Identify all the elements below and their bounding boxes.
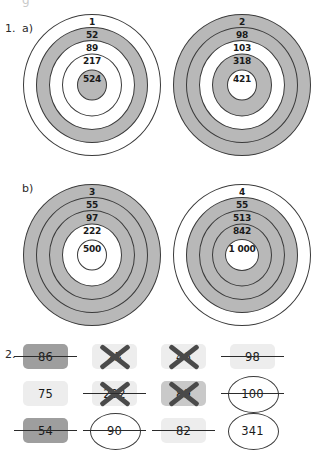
- target-4: 4 55 513 842 1 000: [172, 182, 312, 328]
- target-2-label-1: 2: [239, 17, 245, 27]
- exercise-2-grid: 86 23 46 98 75: [18, 338, 298, 449]
- target-3: 3 55 97 222 500: [22, 182, 162, 328]
- partial-glyph-top: g: [22, 0, 30, 7]
- target-2-label-2: 98: [236, 30, 248, 40]
- number-cell[interactable]: 23: [87, 343, 142, 370]
- target-4-label-2: 55: [236, 200, 248, 210]
- cell-value: 46: [176, 350, 191, 364]
- number-row: 86 23 46 98: [18, 338, 298, 375]
- circle-mark-icon: [90, 413, 141, 450]
- cell-value: 75: [38, 387, 53, 401]
- strikethrough-mark: [152, 430, 215, 431]
- target-4-label-3: 513: [233, 213, 251, 223]
- target-2-label-4: 318: [233, 56, 251, 66]
- target-3-label-4: 222: [83, 226, 101, 236]
- target-4-label-5: 1 000: [228, 244, 255, 254]
- strikethrough-mark: [221, 356, 284, 357]
- target-2: 2 98 103 318 421: [172, 12, 312, 158]
- target-3-label-1: 3: [89, 187, 95, 197]
- number-cell[interactable]: 341: [225, 417, 280, 444]
- number-cell[interactable]: 75: [18, 380, 73, 407]
- cell-value: 23: [107, 350, 122, 364]
- strikethrough-mark: [14, 356, 77, 357]
- exercise-2-number: 2.: [5, 348, 16, 361]
- target-1-label-1: 1: [89, 17, 95, 27]
- number-cell[interactable]: 46: [156, 343, 211, 370]
- target-1-label-4: 217: [83, 56, 101, 66]
- circle-mark-icon: [228, 376, 279, 413]
- number-cell[interactable]: 82: [156, 417, 211, 444]
- target-1: 1 52 89 217 524: [22, 12, 162, 158]
- number-row: 75 202 89 100: [18, 375, 298, 412]
- number-cell[interactable]: 89: [156, 380, 211, 407]
- strikethrough-mark: [83, 393, 146, 394]
- strikethrough-mark: [14, 430, 77, 431]
- number-cell[interactable]: 86: [18, 343, 73, 370]
- target-1-label-5: 524: [83, 74, 101, 84]
- number-cell[interactable]: 202: [87, 380, 142, 407]
- number-cell[interactable]: 98: [225, 343, 280, 370]
- target-2-label-3: 103: [233, 43, 251, 53]
- number-cell[interactable]: 90: [87, 417, 142, 444]
- target-4-label-4: 842: [233, 226, 251, 236]
- strikethrough-mark: [221, 393, 284, 394]
- number-row: 54 90 82 341: [18, 412, 298, 449]
- target-4-label-1: 4: [239, 187, 245, 197]
- number-cell[interactable]: 54: [18, 417, 73, 444]
- target-3-label-3: 97: [86, 213, 98, 223]
- exercise-1-number: 1.: [5, 22, 16, 35]
- target-1-label-2: 52: [86, 30, 98, 40]
- number-cell[interactable]: 100: [225, 380, 280, 407]
- target-3-label-5: 500: [83, 244, 101, 254]
- circle-mark-icon: [228, 413, 279, 450]
- strikethrough-mark: [83, 430, 146, 431]
- cell-value: 89: [176, 387, 191, 401]
- target-1-label-3: 89: [86, 43, 98, 53]
- target-3-label-2: 55: [86, 200, 98, 210]
- target-2-label-5: 421: [233, 74, 251, 84]
